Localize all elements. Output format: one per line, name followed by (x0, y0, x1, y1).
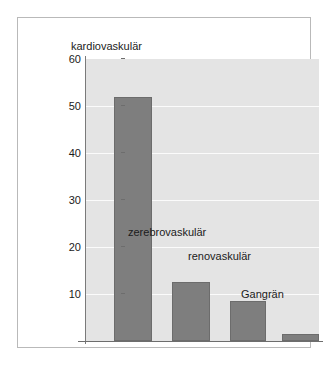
y-tick-label-10: 10 (57, 287, 81, 301)
y-tick-mark-30 (121, 199, 125, 200)
bar-label-gangraen: Gangrän (241, 288, 284, 301)
y-tick-label-30: 30 (57, 193, 81, 207)
bar-kardiovaskulaer[interactable] (114, 97, 152, 341)
y-axis-line (85, 56, 86, 344)
bar-renovaskulaer[interactable] (230, 301, 266, 341)
bar-label-kardiovaskulaer: kardiovaskulär (71, 40, 142, 53)
plot-area (86, 59, 319, 341)
y-tick-label-60: 60 (57, 52, 81, 66)
x-axis-line (78, 341, 323, 342)
y-tick-mark-60 (121, 58, 125, 59)
bar-label-zerebrovaskulaer: zerebrovaskulär (128, 226, 206, 239)
bar-zerebrovaskulaer[interactable] (172, 282, 210, 341)
y-tick-mark-40 (121, 152, 125, 153)
y-tick-mark-20 (121, 246, 125, 247)
y-tick-label-40: 40 (57, 146, 81, 160)
y-axis-title: Häufigkeit (%) (38, 0, 56, 58)
bar-label-renovaskulaer: renovaskulär (188, 250, 251, 263)
chart-figure-frame: Häufigkeit (%) 60 50 40 30 20 10 kardiov… (17, 17, 311, 348)
y-axis-tick-labels: 60 50 40 30 20 10 (57, 52, 81, 348)
y-tick-mark-10 (121, 293, 125, 294)
y-tick-mark-50 (121, 105, 125, 106)
y-tick-label-20: 20 (57, 240, 81, 254)
y-tick-label-50: 50 (57, 99, 81, 113)
bar-gangraen[interactable] (282, 334, 319, 341)
